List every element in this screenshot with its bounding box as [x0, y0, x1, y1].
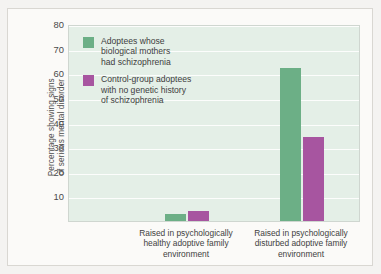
- figure-root: Percentage showing signs of serious ment…: [0, 0, 381, 274]
- y-axis-tick-label: 80: [38, 20, 64, 30]
- y-axis-tick-label: 60: [38, 69, 64, 79]
- x-axis-category-labels: Raised in psychologically healthy adopti…: [68, 228, 360, 268]
- bar-group: [280, 26, 324, 221]
- y-axis-tick-label: 30: [38, 143, 64, 153]
- y-axis-tick-label: 50: [38, 94, 64, 104]
- bars-layer: [69, 26, 359, 221]
- x-axis-category-label: Raised in psychologically disturbed adop…: [231, 228, 371, 259]
- bar-green: [280, 68, 301, 221]
- bar-purple: [188, 211, 209, 221]
- y-axis-tick-label: 70: [38, 45, 64, 55]
- plot-area: Adoptees whose biological mothers had sc…: [68, 25, 360, 222]
- figure-card: Percentage showing signs of serious ment…: [7, 8, 373, 266]
- y-axis-tick-label: 10: [38, 192, 64, 202]
- y-axis-tick-label: 40: [38, 119, 64, 129]
- y-axis-tick-labels: 8070605040302010: [38, 25, 64, 222]
- bar-group: [165, 26, 209, 221]
- bar-green: [165, 214, 186, 221]
- bar-purple: [303, 137, 324, 221]
- y-axis-tick-label: 20: [38, 168, 64, 178]
